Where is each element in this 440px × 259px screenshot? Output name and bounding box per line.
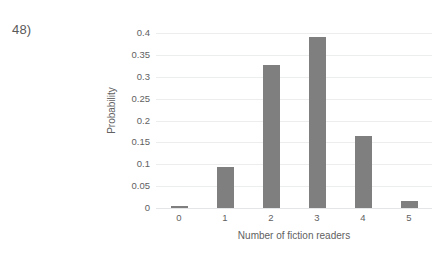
- y-axis-tick-label: 0: [145, 203, 150, 213]
- y-axis-tick-label: 0.4: [137, 28, 150, 38]
- x-axis-tick-label: 5: [386, 212, 432, 223]
- bar-series: [156, 33, 432, 208]
- bar-slot: [248, 33, 294, 208]
- bar: [401, 201, 418, 208]
- bar-slot: [386, 33, 432, 208]
- bar-slot: [294, 33, 340, 208]
- bar: [355, 136, 372, 208]
- x-axis-tick-label: 3: [294, 212, 340, 223]
- question-number-label: 48): [12, 22, 31, 37]
- x-axis-tick-label: 1: [202, 212, 248, 223]
- x-axis-tick-labels: 012345: [156, 212, 432, 223]
- x-axis-tick-label: 0: [156, 212, 202, 223]
- y-axis-title: Probability: [103, 12, 119, 208]
- gridline: [156, 208, 432, 209]
- bar: [217, 167, 234, 208]
- x-axis-tick-label: 2: [248, 212, 294, 223]
- plot-area: 0.40.350.30.250.20.150.10.050: [156, 33, 432, 208]
- y-axis-tick-label: 0.1: [137, 160, 150, 170]
- bar-slot: [202, 33, 248, 208]
- y-axis-tick-label: 0.35: [132, 50, 151, 60]
- bar: [263, 65, 280, 209]
- bar: [309, 37, 326, 208]
- y-axis-title-text: Probability: [106, 87, 117, 134]
- y-axis-tick-label: 0.05: [132, 181, 151, 191]
- x-axis-title: Number of fiction readers: [156, 230, 432, 241]
- x-axis-tick-label: 4: [340, 212, 386, 223]
- bar-slot: [156, 33, 202, 208]
- y-axis-tick-label: 0.15: [132, 138, 151, 148]
- y-axis-tick-label: 0.3: [137, 72, 150, 82]
- bar-slot: [340, 33, 386, 208]
- bar-chart: Probability 0.40.350.30.250.20.150.10.05…: [104, 12, 434, 250]
- y-axis-tick-label: 0.2: [137, 116, 150, 126]
- y-axis-tick-label: 0.25: [132, 94, 151, 104]
- bar: [171, 206, 188, 208]
